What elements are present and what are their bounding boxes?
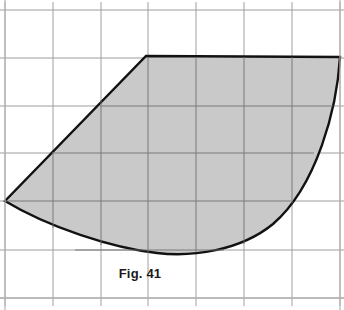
figure-caption: Fig. 41 — [0, 266, 280, 282]
shaded-lens-sector-shape — [5, 56, 340, 254]
figure-diagram — [0, 0, 344, 310]
figure-container: Fig. 41 — [0, 0, 344, 310]
